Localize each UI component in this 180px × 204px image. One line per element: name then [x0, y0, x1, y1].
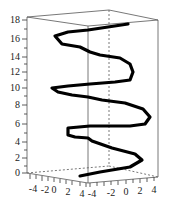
y-axis-labels: -4 -2 0 2 4	[88, 184, 157, 199]
space-curve	[52, 24, 150, 176]
svg-text:8: 8	[15, 99, 20, 110]
svg-text:0: 0	[15, 167, 20, 178]
svg-text:-2: -2	[107, 187, 115, 198]
svg-text:4: 4	[80, 188, 85, 199]
plot-box-hidden-edges	[27, 10, 158, 177]
svg-text:0: 0	[52, 184, 57, 195]
x-axis	[30, 174, 86, 187]
svg-text:-2: -2	[41, 184, 49, 195]
svg-text:10: 10	[10, 82, 20, 93]
svg-text:4: 4	[152, 184, 157, 195]
z-axis	[22, 20, 27, 173]
svg-text:12: 12	[10, 66, 20, 77]
svg-text:2: 2	[15, 152, 20, 163]
z-axis-labels: 18 16 14 12 10 8 6 4 2 0	[10, 14, 20, 178]
svg-text:2: 2	[66, 186, 71, 197]
svg-text:14: 14	[10, 51, 20, 62]
svg-text:0: 0	[124, 186, 129, 197]
svg-text:6: 6	[15, 118, 20, 129]
svg-text:4: 4	[15, 136, 20, 147]
3d-plot: 18 16 14 12 10 8 6 4 2 0 -4 -2 0 2 4	[0, 0, 180, 204]
svg-text:-4: -4	[29, 183, 37, 194]
svg-text:16: 16	[10, 33, 20, 44]
svg-text:18: 18	[10, 14, 20, 25]
x-axis-labels: -4 -2 0 2 4	[29, 183, 85, 199]
svg-text:2: 2	[138, 185, 143, 196]
svg-text:-4: -4	[88, 188, 96, 199]
